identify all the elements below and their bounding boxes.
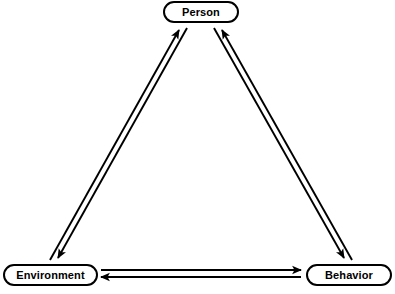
node-environment-label: Environment — [16, 270, 84, 281]
edge-person-to-environment — [58, 28, 187, 258]
node-behavior-label: Behavior — [325, 270, 373, 281]
edge-person-to-behavior — [214, 28, 344, 258]
edge-behavior-to-person — [222, 30, 352, 260]
node-person[interactable]: Person — [163, 1, 239, 23]
diagram-edges-layer — [0, 0, 395, 294]
node-behavior[interactable]: Behavior — [306, 264, 392, 286]
node-environment[interactable]: Environment — [3, 264, 98, 286]
edge-environment-to-person — [50, 30, 179, 260]
diagram-canvas: Person Environment Behavior — [0, 0, 395, 294]
node-person-label: Person — [182, 7, 220, 18]
